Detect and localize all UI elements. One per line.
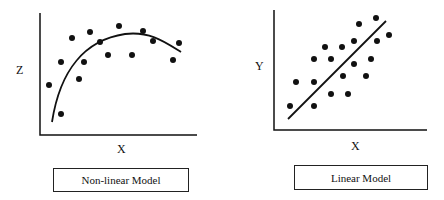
data-point [374,38,380,44]
data-point [328,91,334,97]
data-point [87,29,93,35]
data-point [69,35,75,41]
data-point [58,59,64,65]
data-point [311,56,317,62]
data-point [351,38,357,44]
data-point [311,103,317,109]
linear-points [287,15,392,109]
data-point [293,79,299,85]
linear-model-caption: Linear Model [294,165,428,190]
linear-fit-line [288,21,386,119]
data-point [176,40,182,46]
nonlinear-model-caption: Non-linear Model [53,168,189,192]
data-point [140,28,146,34]
data-point [150,38,156,44]
data-point [339,44,345,50]
data-point [105,52,111,58]
data-point [356,21,362,27]
data-point [97,39,103,45]
data-point [46,82,52,88]
left-x-axis-label: X [117,143,126,155]
data-point [311,79,317,85]
data-point [363,73,369,79]
data-point [322,44,328,50]
linear-axes [274,10,427,130]
data-point [328,56,334,62]
data-point [386,32,392,38]
data-point [345,91,351,97]
data-point [368,56,374,62]
data-point [129,52,135,58]
data-point [373,15,379,21]
y-axis-label: Y [255,60,264,72]
data-point [170,57,176,63]
data-point [287,103,293,109]
data-point [116,23,122,29]
nonlinear-axes [40,13,197,135]
linear-plot [274,10,427,130]
nonlinear-fit-curve [52,33,181,122]
z-axis-label: Z [16,64,23,76]
data-point [58,111,64,117]
data-point [340,73,346,79]
nonlinear-plot [40,13,197,135]
data-point [76,76,82,82]
right-x-axis-label: X [351,140,360,152]
data-point [81,59,87,65]
data-point [351,61,357,67]
